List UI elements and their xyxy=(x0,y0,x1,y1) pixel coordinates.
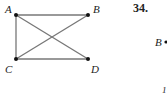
label-d: D xyxy=(90,63,99,75)
label-c: C xyxy=(5,63,13,75)
node-a xyxy=(14,13,18,17)
graph-diagram: A B C D 34. B 1 xyxy=(0,0,167,95)
partial-label-bottom: 1 xyxy=(162,85,167,95)
node-c xyxy=(14,57,18,61)
partial-label-b: B xyxy=(155,36,162,48)
node-d xyxy=(86,57,90,61)
nodes xyxy=(14,13,167,61)
label-b: B xyxy=(93,3,100,15)
edges xyxy=(16,15,88,59)
label-a: A xyxy=(4,3,12,15)
problem-number: 34. xyxy=(133,1,148,15)
partial-node-b xyxy=(164,40,167,43)
node-b xyxy=(86,13,90,17)
